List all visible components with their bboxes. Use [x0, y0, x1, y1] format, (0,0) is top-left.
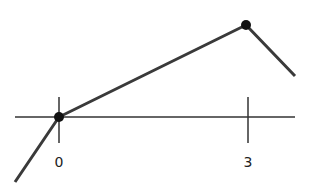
tick-label-3: 3: [244, 155, 253, 169]
peak-point: [241, 20, 251, 30]
tick-label-0: 0: [55, 155, 64, 169]
origin-point: [54, 112, 64, 122]
graph-canvas: [0, 0, 317, 187]
